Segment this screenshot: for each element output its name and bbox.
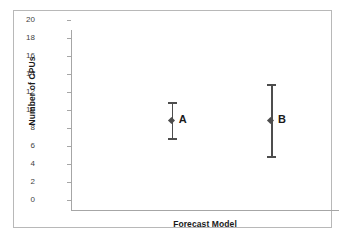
data-point-marker — [168, 116, 175, 123]
y-tick-label: 4 — [31, 160, 35, 168]
error-bar-upper-cap — [267, 84, 276, 86]
error-bar-series: B — [252, 30, 292, 211]
error-bar-upper-cap — [168, 102, 177, 104]
y-axis-title: Number of CPUs — [27, 36, 37, 146]
plot-area: AB — [71, 30, 339, 211]
y-tick-label: 20 — [26, 16, 35, 24]
y-tick-mark — [67, 20, 71, 21]
x-axis-title: Forecast Model — [71, 219, 339, 229]
series-label: B — [278, 114, 286, 125]
y-tick-label: 2 — [31, 178, 35, 186]
error-bar-series: A — [153, 30, 193, 211]
data-point-marker — [267, 116, 274, 123]
y-tick-label: 0 — [31, 196, 35, 204]
figure-frame: 20181614121086420 Number of CPUs AB Fore… — [13, 10, 332, 228]
error-bar-lower-cap — [168, 138, 177, 140]
series-label: A — [179, 114, 187, 125]
error-bar-lower-cap — [267, 156, 276, 158]
chart-figure: 20181614121086420 Number of CPUs AB Fore… — [0, 0, 346, 237]
